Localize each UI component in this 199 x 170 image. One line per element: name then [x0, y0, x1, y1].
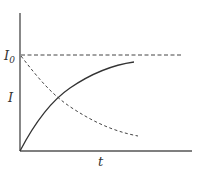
y-axis-label: I	[7, 90, 14, 105]
current-vs-time-diagram: I0 I t	[0, 0, 199, 170]
x-axis-label: t	[98, 154, 104, 169]
i0-label: I0	[3, 48, 15, 65]
decaying-curve	[21, 56, 138, 136]
rising-curve	[20, 62, 134, 151]
